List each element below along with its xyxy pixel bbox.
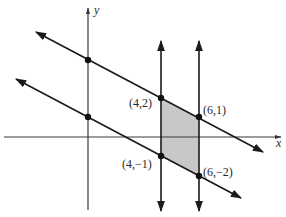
upper-diagonal-line bbox=[36, 32, 263, 152]
y-intercept-upper-point bbox=[85, 57, 91, 63]
point-6-neg2 bbox=[196, 173, 202, 179]
coordinate-diagram: y x (4,2) (6,1) (4,−1) (6,−2) bbox=[0, 0, 286, 217]
x-axis-label: x bbox=[275, 136, 282, 150]
point-6-1 bbox=[196, 114, 202, 120]
label-point-4-2: (4,2) bbox=[129, 96, 152, 110]
label-point-6-1: (6,1) bbox=[203, 103, 226, 117]
y-intercept-lower-point bbox=[85, 114, 91, 120]
y-axis-label: y bbox=[93, 3, 100, 17]
point-4-neg1 bbox=[158, 153, 164, 159]
point-4-2 bbox=[158, 95, 164, 101]
label-point-4-neg1: (4,−1) bbox=[122, 157, 152, 171]
label-point-6-neg2: (6,−2) bbox=[203, 165, 233, 179]
